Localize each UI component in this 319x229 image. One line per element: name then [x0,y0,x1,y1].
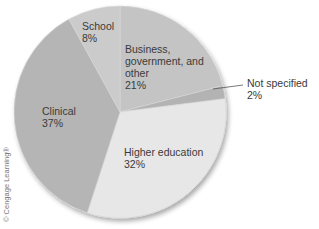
label-clinical: Clinical 37% [42,105,76,129]
label-higher-education: Higher education 32% [124,146,203,170]
label-not-specified: Not specified 2% [247,77,308,101]
label-business: Business, government, and other 21% [125,43,204,91]
copyright-credit: © Cengage Learning® [2,147,11,222]
label-school: School 8% [82,20,114,44]
